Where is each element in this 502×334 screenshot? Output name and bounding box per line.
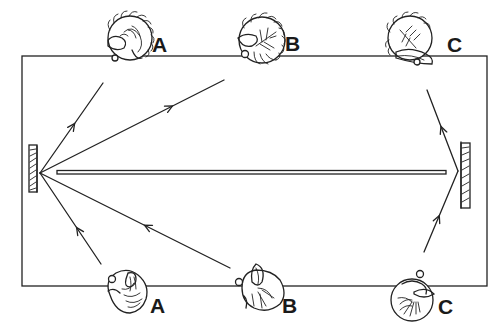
top-label-b: B xyxy=(285,32,300,55)
bottom-label-c: C xyxy=(438,295,453,318)
bottom-head-b xyxy=(236,264,285,310)
ray-3 xyxy=(40,173,101,264)
bottom-head-c xyxy=(391,271,434,322)
top-head-a xyxy=(108,11,154,61)
top-label-a: A xyxy=(152,33,167,56)
top-label-c: C xyxy=(447,33,462,56)
top-head-c xyxy=(385,12,432,65)
partition-bar xyxy=(57,171,446,175)
bottom-label-a: A xyxy=(150,294,165,317)
ray-4 xyxy=(40,173,230,268)
arrowhead-icon xyxy=(77,228,84,236)
right-mirror xyxy=(461,142,470,208)
ray-5 xyxy=(424,171,458,252)
ray-6 xyxy=(427,90,458,171)
left-mirror xyxy=(29,145,37,192)
bottom-head-a xyxy=(108,270,147,313)
bottom-label-b: B xyxy=(282,294,297,317)
ray-2 xyxy=(40,80,224,173)
mirror-diagram: A B C A xyxy=(0,0,502,334)
top-head-b xyxy=(238,13,285,64)
ray-1 xyxy=(40,83,103,173)
